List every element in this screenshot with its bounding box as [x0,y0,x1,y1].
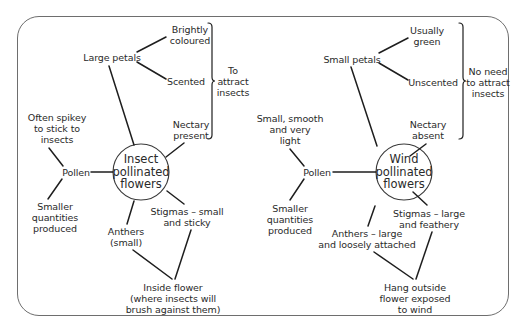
label-line: present [173,130,210,141]
large-petals-label: Large petals [83,52,141,63]
label-line: absent [410,130,447,141]
anthers-large-label: Anthers – large and loosely attached [318,228,415,250]
label-line: coloured [170,35,210,46]
label-line: Stigmas – large [393,208,465,219]
hub-line: Insect [112,153,169,166]
label-line: and feathery [393,219,465,230]
label-line: Anthers [108,226,144,237]
label-line: Brightly [170,24,210,35]
label-line: light [257,135,324,146]
label-line: and very [257,124,324,135]
anthers-small-label: Anthers (small) [108,226,144,248]
insect-pollinated-hub: Insect pollinated flowers [112,153,169,191]
usually-green-label: Usually green [410,25,444,47]
label-line: insects [217,87,250,98]
wind-smaller-quantities-label: Smaller quantities produced [267,203,313,236]
inside-flower-label: Inside flower (where insects will brush … [126,282,221,315]
label-line: quantities [32,212,78,223]
label-line: to wind [380,304,451,315]
wind-pollen-label: Pollen [303,167,331,178]
label-line: Nectary [410,119,447,130]
label-line: produced [32,223,78,234]
label-line: Stigmas – small [150,206,223,217]
label-line: brush against them) [126,304,221,315]
often-spikey-label: Often spikey to stick to insects [28,112,86,145]
label-line: Usually [410,25,444,36]
label-line: (small) [108,237,144,248]
label-line: and loosely attached [318,239,415,250]
label-line: Often spikey [28,112,86,123]
label-line: flower exposed [380,293,451,304]
scented-label: Scented [167,76,205,87]
stigmas-small-label: Stigmas – small and sticky [150,206,223,228]
nectary-absent-label: Nectary absent [410,119,447,141]
label-line: attract [217,76,250,87]
brightly-coloured-label: Brightly coloured [170,24,210,46]
insect-pollen-label: Pollen [62,167,90,178]
hang-outside-label: Hang outside flower exposed to wind [380,282,451,315]
no-need-to-attract-note: No need to attract insects [466,66,510,99]
label-line: Nectary [173,119,210,130]
label-line: produced [267,225,313,236]
unscented-label: Unscented [408,77,458,88]
label-line: Smaller [267,203,313,214]
label-line: No need [466,66,510,77]
label-line: Small, smooth [257,113,324,124]
stigmas-large-label: Stigmas – large and feathery [393,208,465,230]
label-line: to attract [466,77,510,88]
label-line: green [410,36,444,47]
small-smooth-light-label: Small, smooth and very light [257,113,324,146]
hub-line: flowers [112,178,169,191]
hub-line: flowers [375,178,432,191]
label-line: (where insects will [126,293,221,304]
insect-smaller-quantities-label: Smaller quantities produced [32,201,78,234]
hub-line: Wind [375,153,432,166]
label-line: and sticky [150,217,223,228]
label-line: Smaller [32,201,78,212]
small-petals-label: Small petals [323,54,380,65]
label-line: Inside flower [126,282,221,293]
nectary-present-label: Nectary present [173,119,210,141]
label-line: insects [28,134,86,145]
label-line: to stick to [28,123,86,134]
pollination-diagram: Insect pollinated flowers Large petals B… [0,0,521,330]
label-line: insects [466,88,510,99]
connector-lines [0,0,521,330]
label-line: Hang outside [380,282,451,293]
label-line: quantities [267,214,313,225]
wind-pollinated-hub: Wind pollinated flowers [375,153,432,191]
label-line: To [217,65,250,76]
to-attract-insects-note: To attract insects [217,65,250,98]
